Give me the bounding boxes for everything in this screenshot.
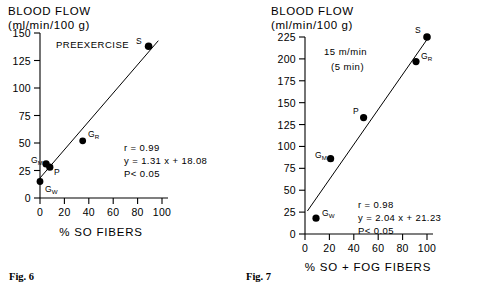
fig6-point-gr [79,137,86,144]
fig6-ytick-label-125: 125 [13,55,31,67]
fig7-y-tick-labels: 0 25 50 75 100 125 150 175 200 225 [278,31,296,240]
fig7-xtick-label-80: 80 [396,242,408,254]
fig7-stat-r: r = 0.98 [358,199,394,210]
fig6-ytick-label-150: 150 [13,27,31,39]
figure-7-panel: BLOOD FLOW (ml/min/100 g) 0 25 50 75 100… [243,0,486,298]
fig7-stats-block: r = 0.98 y = 2.04 x + 21.23 P< 0.05 [358,199,441,236]
fig6-ytick-label-50: 50 [19,137,31,149]
fig7-y-ticks [299,37,305,234]
fig6-stat-r: r = 0.99 [124,142,160,153]
fig7-ytick-label-125: 125 [278,119,296,131]
fig7-x-axis-label: % SO + FOG FIBERS [305,261,431,273]
fig7-xtick-label-0: 0 [302,242,308,254]
fig6-label-gr: GR [88,129,100,140]
fig7-ytick-label-150: 150 [278,97,296,109]
fig7-stat-eq: y = 2.04 x + 21.23 [358,212,441,223]
fig7-caption: Fig. 7 [246,271,271,282]
fig7-condition-label-line1: 15 m/min [324,46,367,57]
fig6-xtick-label-60: 60 [107,206,119,218]
fig6-condition-label: PREEXERCISE [56,39,129,50]
fig6-ytick-label-0: 0 [25,192,31,204]
fig6-y-tick-labels: 0 25 50 75 100 125 150 [13,27,31,204]
fig6-y-ticks [34,33,40,198]
fig6-label-gw: GW [45,184,58,195]
fig6-stats-block: r = 0.99 y = 1.31 x + 18.08 P< 0.05 [124,142,207,179]
fig6-x-tick-labels: 0 20 40 60 80 100 [37,206,171,218]
fig6-stat-eq: y = 1.31 x + 18.08 [124,155,207,166]
fig7-xtick-label-20: 20 [323,242,335,254]
fig6-xtick-label-80: 80 [131,206,143,218]
fig6-caption: Fig. 6 [9,271,34,282]
figure-6-panel: BLOOD FLOW (ml/min/100 g) 0 25 50 75 100… [0,0,243,298]
fig6-label-gm: GM [31,155,43,166]
fig6-point-gw [37,178,44,185]
fig6-xtick-label-20: 20 [58,206,70,218]
fig6-ytick-label-100: 100 [13,82,31,94]
fig6-plot: 0 25 50 75 100 125 150 0 20 40 60 80 100… [0,0,243,298]
fig7-x-tick-labels: 0 20 40 60 80 100 [302,242,436,254]
fig7-ytick-label-75: 75 [284,162,296,174]
fig7-xtick-label-60: 60 [372,242,384,254]
fig6-ytick-label-25: 25 [19,165,31,177]
fig7-ytick-label-0: 0 [290,228,296,240]
fig6-ytick-label-75: 75 [19,110,31,122]
fig7-ytick-label-225: 225 [278,31,296,43]
fig6-x-axis-label: % SO FIBERS [59,226,143,238]
fig7-label-p: P [353,106,359,116]
fig7-xtick-label-40: 40 [348,242,360,254]
fig7-condition-label-line2: (5 min) [331,61,364,72]
fig7-ytick-label-100: 100 [278,140,296,152]
fig7-ytick-label-200: 200 [278,53,296,65]
fig7-xtick-label-100: 100 [418,242,436,254]
fig7-point-gr [412,58,419,65]
fig7-point-s [423,33,431,41]
fig6-label-s: S [136,36,142,46]
fig7-ytick-label-50: 50 [284,184,296,196]
fig7-ytick-label-25: 25 [284,206,296,218]
fig6-xtick-label-0: 0 [37,206,43,218]
fig7-regression-line [307,40,427,212]
fig6-point-s [145,42,153,50]
fig7-stat-p: P< 0.05 [358,225,394,236]
fig6-point-p [46,164,53,171]
fig6-stat-p: P< 0.05 [124,168,160,179]
fig7-point-gw [312,215,319,222]
fig6-x-ticks [40,198,162,204]
fig6-xtick-label-100: 100 [153,206,171,218]
fig7-label-gw: GW [322,208,335,219]
fig6-xtick-label-40: 40 [83,206,95,218]
fig7-label-gm: GM [315,150,327,161]
fig7-label-s: S [415,25,421,35]
fig7-ytick-label-175: 175 [278,75,296,87]
fig7-plot: 0 25 50 75 100 125 150 175 200 225 0 20 … [243,0,486,298]
fig6-label-p: P [54,167,60,177]
fig7-point-p [360,114,367,121]
fig7-point-gm [327,155,334,162]
fig7-label-gr: GR [421,51,433,62]
